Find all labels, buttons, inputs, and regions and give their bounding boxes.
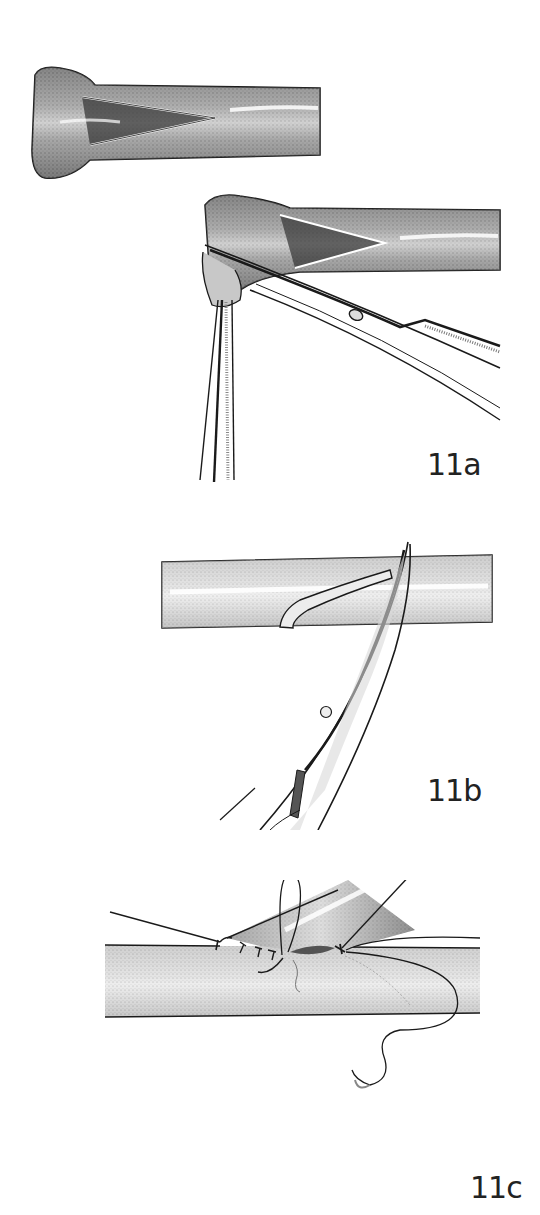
vein-spatulation-illustration <box>0 0 540 510</box>
panel-label-11a: 11a <box>427 447 481 482</box>
panel-label-11b: 11b <box>427 773 481 808</box>
spatulated-vein <box>32 67 320 178</box>
panel-11c: 11c <box>0 880 540 1215</box>
panel-11a: 11a <box>0 0 540 510</box>
host-artery <box>105 945 480 1017</box>
anastomosis-illustration <box>0 880 540 1215</box>
vein-with-scissors <box>200 195 500 482</box>
artery <box>162 555 492 628</box>
panel-11b: 11b <box>0 530 540 830</box>
panel-label-11c: 11c <box>470 1170 522 1205</box>
